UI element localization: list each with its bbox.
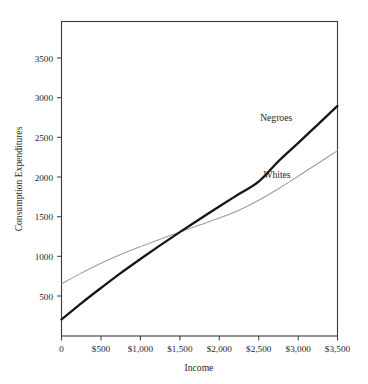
series-label-negroes: Negroes: [260, 112, 292, 123]
x-tick-label-0: 0: [59, 344, 64, 354]
y-tick-label-1000: 1000: [35, 252, 54, 262]
consumption-income-line-chart: 500 1000 1500 2000 2500 3000 3500 0 $500…: [0, 0, 368, 384]
y-tick-label-1500: 1500: [35, 212, 54, 222]
x-tick-label-1500: $1,500: [167, 344, 193, 354]
chart-background: [0, 0, 368, 384]
x-tick-label-3000: $3,000: [286, 344, 312, 354]
y-tick-label-2000: 2000: [35, 173, 54, 183]
x-axis-title: Income: [185, 362, 214, 373]
y-axis-title: Consumption Expenditures: [13, 126, 24, 231]
x-tick-label-500: $500: [92, 344, 111, 354]
y-tick-label-3000: 3000: [35, 93, 54, 103]
x-tick-label-2500: $2,500: [246, 344, 272, 354]
y-tick-label-3500: 3500: [35, 54, 54, 64]
x-tick-label-1000: $1,000: [128, 344, 154, 354]
x-tick-label-3500: $3,500: [325, 344, 351, 354]
x-tick-label-2000: $2,000: [207, 344, 233, 354]
y-tick-label-500: 500: [39, 292, 53, 302]
y-tick-label-2500: 2500: [35, 133, 54, 143]
series-label-whites: Whites: [263, 169, 290, 180]
chart-figure: 500 1000 1500 2000 2500 3000 3500 0 $500…: [0, 0, 368, 384]
